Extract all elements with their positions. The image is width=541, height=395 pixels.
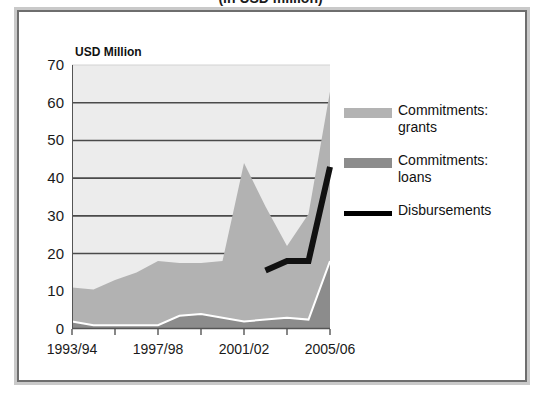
legend-swatch-disbursements <box>344 211 392 216</box>
y-axis-title: USD Million <box>75 45 142 59</box>
chart-title-text: (in USD million) <box>218 0 322 6</box>
area-commitments-grants <box>72 91 330 325</box>
x-tick-label: 2005/06 <box>285 341 375 357</box>
y-tick-label: 30 <box>22 208 64 223</box>
y-tick-label: 50 <box>22 132 64 147</box>
legend-label-disbursements: Disbursements <box>398 202 491 219</box>
y-tick-label: 0 <box>22 321 64 336</box>
x-tick-label: 1993/94 <box>27 341 117 357</box>
chart-image: (in USD million) USD Million 01020304050… <box>0 0 541 395</box>
legend-item-disbursements: Disbursements <box>344 202 524 219</box>
legend-swatch-grants <box>344 108 392 118</box>
y-tick-label: 10 <box>22 283 64 298</box>
legend-swatch-loans <box>344 158 392 168</box>
legend-label-grants: Commitments: grants <box>398 102 518 136</box>
chart-body: USD Million 010203040506070 1993/941997/… <box>14 7 530 385</box>
plot-area <box>72 65 330 329</box>
chart-legend: Commitments: grants Commitments: loans D… <box>344 102 524 235</box>
legend-item-grants: Commitments: grants <box>344 102 524 136</box>
plot-svg <box>72 65 330 337</box>
legend-label-loans: Commitments: loans <box>398 152 518 186</box>
y-tick-label: 60 <box>22 95 64 110</box>
y-tick-label: 70 <box>22 57 64 72</box>
legend-item-loans: Commitments: loans <box>344 152 524 186</box>
y-tick-label: 40 <box>22 170 64 185</box>
y-tick-label: 20 <box>22 246 64 261</box>
x-tick-label: 2001/02 <box>199 341 289 357</box>
x-tick-label: 1997/98 <box>113 341 203 357</box>
chart-title-cropped: (in USD million) <box>0 0 541 6</box>
